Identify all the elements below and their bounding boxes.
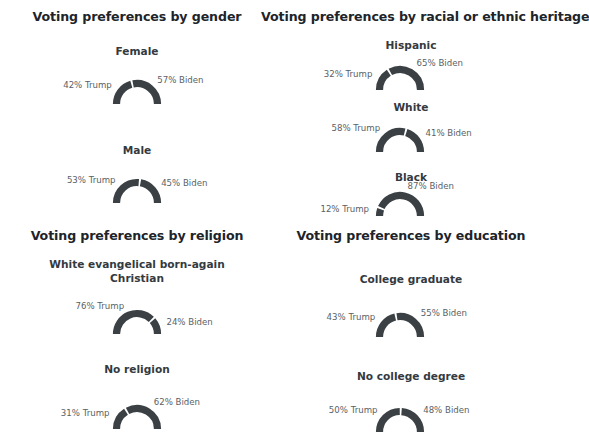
biden-value-label: 65% Biden xyxy=(417,58,463,69)
biden-value-label: 48% Biden xyxy=(423,405,469,416)
gauge-caption: College graduate xyxy=(274,272,548,286)
gauge-caption: No religion xyxy=(0,362,274,376)
biden-value-label: 24% Biden xyxy=(166,317,212,328)
trump-value-label: 53% Trump xyxy=(67,175,116,186)
biden-segment xyxy=(128,409,158,429)
biden-value-label: 41% Biden xyxy=(425,128,471,139)
trump-segment xyxy=(380,209,381,216)
biden-segment xyxy=(141,183,158,203)
trump-value-label: 43% Trump xyxy=(327,312,376,323)
biden-value-label: 62% Biden xyxy=(154,397,200,408)
biden-segment xyxy=(390,70,420,90)
biden-segment xyxy=(153,321,158,334)
biden-value-label: 45% Biden xyxy=(161,178,207,189)
biden-value-label: 87% Biden xyxy=(408,181,454,192)
trump-segment xyxy=(117,313,152,334)
trump-segment xyxy=(117,182,139,203)
panel-title: Voting preferences by religion xyxy=(0,228,274,243)
trump-segment xyxy=(117,84,132,104)
panel-title: Voting preferences by education xyxy=(274,228,548,243)
trump-segment xyxy=(117,412,126,429)
trump-value-label: 76% Trump xyxy=(76,301,125,312)
gauge-caption: Hispanic xyxy=(274,38,548,52)
trump-value-label: 50% Trump xyxy=(329,405,378,416)
gauge-caption: No college degree xyxy=(274,369,548,383)
trump-value-label: 12% Trump xyxy=(320,204,369,215)
biden-value-label: 55% Biden xyxy=(421,308,467,319)
biden-segment xyxy=(397,317,421,337)
trump-segment xyxy=(380,73,389,90)
biden-segment xyxy=(406,133,420,153)
trump-value-label: 32% Trump xyxy=(324,69,373,80)
trump-value-label: 58% Trump xyxy=(332,123,381,134)
biden-segment xyxy=(381,196,420,216)
trump-value-label: 31% Trump xyxy=(61,408,110,419)
gauge-caption: Male xyxy=(0,143,274,157)
gauge-caption: White evangelical born-again Christian xyxy=(47,257,227,285)
trump-segment xyxy=(380,131,405,152)
panel-title: Voting preferences by gender xyxy=(0,9,274,24)
trump-segment xyxy=(380,317,396,337)
gauge-caption: Female xyxy=(0,44,274,58)
biden-segment xyxy=(402,412,421,432)
trump-value-label: 42% Trump xyxy=(63,80,112,91)
biden-segment xyxy=(133,84,157,104)
biden-value-label: 57% Biden xyxy=(157,75,203,86)
trump-segment xyxy=(380,412,400,433)
panel-title: Voting preferences by racial or ethnic h… xyxy=(261,9,561,24)
gauge-caption: White xyxy=(274,100,548,114)
